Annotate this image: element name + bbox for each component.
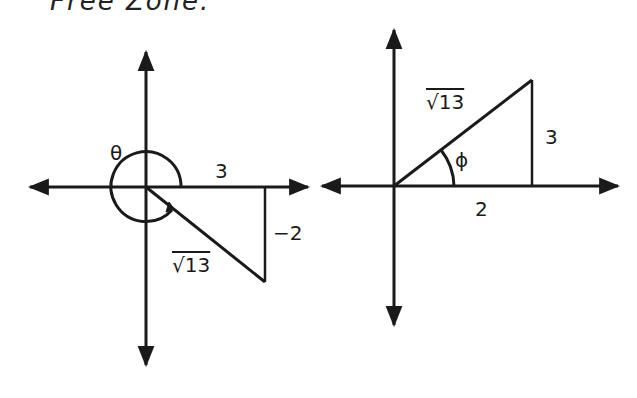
left-hyp-label: √13 <box>172 255 210 275</box>
right-diagram <box>322 30 618 325</box>
right-y-label: 3 <box>545 127 558 147</box>
phi-arc <box>441 150 454 186</box>
left-x-label: 3 <box>215 161 228 181</box>
diagram-canvas <box>0 0 637 398</box>
left-y-label: −2 <box>273 223 302 243</box>
left-diagram <box>30 52 308 365</box>
right-hyp-label: √13 <box>426 92 464 112</box>
theta-label: θ <box>110 143 122 163</box>
right-x-label: 2 <box>475 199 488 219</box>
phi-label: ϕ <box>455 150 468 170</box>
